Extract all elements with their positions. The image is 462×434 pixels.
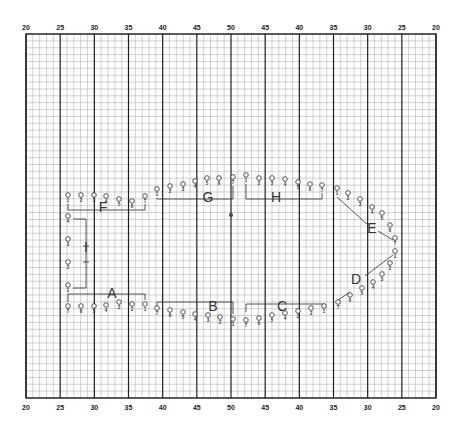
group-label-d: D [351, 271, 361, 287]
top-axis-tick-label: 20 [432, 24, 440, 31]
bottom-axis-tick-label: 40 [159, 404, 167, 411]
bottom-axis-tick-label: 35 [125, 404, 133, 411]
bottom-axis-tick-label: 50 [227, 404, 235, 411]
top-axis-tick-label: 25 [398, 24, 406, 31]
top-axis-tick-label: 45 [261, 24, 269, 31]
top-axis-tick-label: 45 [193, 24, 201, 31]
top-axis-tick-label: 30 [364, 24, 372, 31]
top-axis-tick-label: 40 [295, 24, 303, 31]
bottom-axis-tick-label: 45 [193, 404, 201, 411]
top-axis-tick-label: 40 [159, 24, 167, 31]
bottom-axis-tick-label: 45 [261, 404, 269, 411]
bottom-axis-tick-label: 20 [22, 404, 30, 411]
group-label-f: F [99, 199, 108, 215]
bottom-axis-tick-label: 20 [432, 404, 440, 411]
top-axis-tick-label: 25 [56, 24, 64, 31]
group-label-e: E [367, 220, 376, 236]
group-label-a: A [107, 285, 117, 301]
bottom-axis-tick-label: 35 [330, 404, 338, 411]
top-axis-tick-label: 20 [22, 24, 30, 31]
top-axis-tick-label: 50 [227, 24, 235, 31]
group-label-h: H [271, 189, 281, 205]
group-label-b: B [208, 298, 217, 314]
group-label-g: G [203, 189, 214, 205]
top-axis-tick-label: 35 [330, 24, 338, 31]
bottom-axis-tick-label: 40 [295, 404, 303, 411]
graph-paper-seating-diagram: 20253035404550454035302520 2025303540455… [0, 0, 462, 434]
center-mark [229, 213, 233, 217]
bottom-axis-tick-label: 30 [90, 404, 98, 411]
group-label-i: I [84, 239, 88, 255]
top-axis-tick-label: 30 [90, 24, 98, 31]
top-axis-tick-label: 35 [125, 24, 133, 31]
bottom-axis-tick-label: 25 [398, 404, 406, 411]
center-point-icon [229, 213, 233, 217]
group-label-c: C [277, 298, 287, 314]
bottom-axis-tick-label: 30 [364, 404, 372, 411]
bottom-axis-tick-label: 25 [56, 404, 64, 411]
